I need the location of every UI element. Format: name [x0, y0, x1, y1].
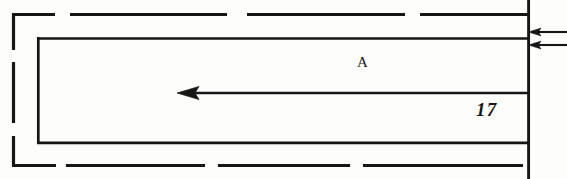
region-label-a: A [357, 54, 368, 71]
line-drawing-svg [0, 0, 567, 179]
canvas-background [0, 0, 567, 179]
dimension-label-17: 17 [476, 99, 497, 121]
figure-canvas: A 17 [0, 0, 567, 179]
